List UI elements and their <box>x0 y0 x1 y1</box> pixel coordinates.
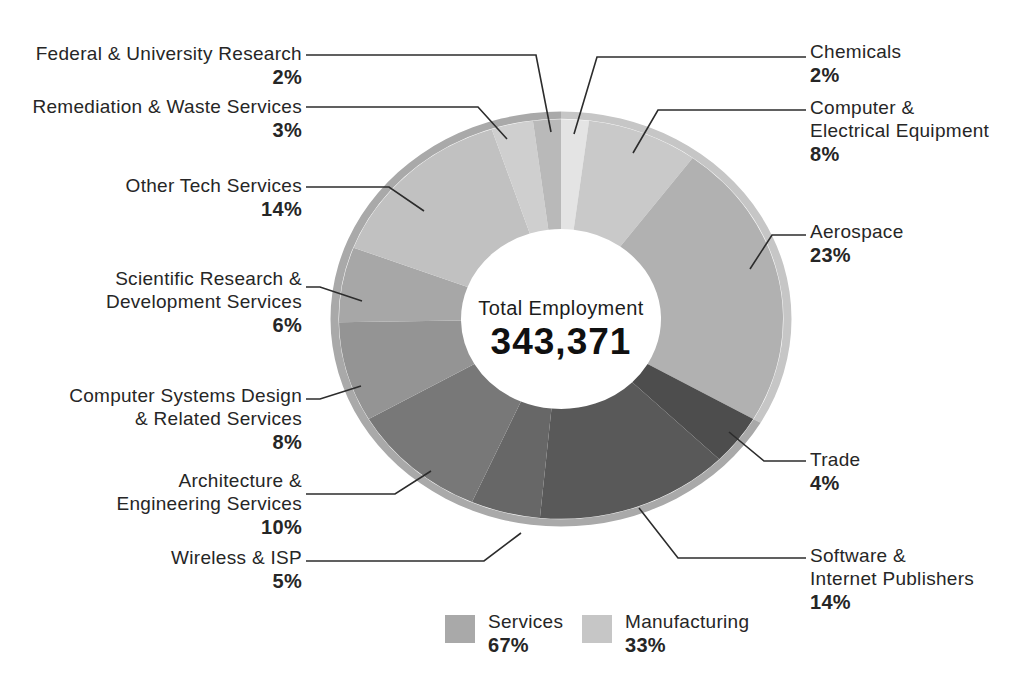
segment-pct: 2% <box>36 66 302 89</box>
segment-label-remediation-waste-services: Remediation & Waste Services 3% <box>32 95 302 142</box>
legend-name: Manufacturing <box>625 611 749 632</box>
segment-pct: 5% <box>171 570 302 593</box>
legend-pct: 67% <box>488 634 563 656</box>
segment-pct: 8% <box>69 431 302 454</box>
segment-pct: 3% <box>32 119 302 142</box>
segment-pct: 4% <box>810 472 860 495</box>
segment-name: Trade <box>810 448 860 471</box>
segment-label-federal-university-research: Federal & University Research 2% <box>36 42 302 89</box>
segment-pct: 10% <box>116 516 302 539</box>
legend-item-manufacturing: Manufacturing 33% <box>582 611 749 656</box>
segment-pct: 2% <box>810 64 901 87</box>
segment-label-software-internet-publishers: Software & Internet Publishers 14% <box>810 544 974 614</box>
segment-name: Wireless & ISP <box>171 546 302 569</box>
leader-line-wireless-isp <box>306 533 521 561</box>
segment-pct: 23% <box>810 244 904 267</box>
segment-pct: 6% <box>106 314 302 337</box>
legend-item-services: Services 67% <box>445 611 563 656</box>
leader-line-software-internet-publishers <box>639 508 806 558</box>
segment-name: Federal & University Research <box>36 42 302 65</box>
segment-name: Architecture & Engineering Services <box>116 469 302 515</box>
segment-label-scientific-research-development-services: Scientific Research & Development Servic… <box>106 267 302 337</box>
segment-label-trade: Trade 4% <box>810 448 860 495</box>
segment-label-aerospace: Aerospace 23% <box>810 220 904 267</box>
segment-name: Chemicals <box>810 40 901 63</box>
segment-name: Other Tech Services <box>126 174 302 197</box>
segment-pct: 8% <box>810 143 989 166</box>
segment-pct: 14% <box>810 591 974 614</box>
segment-label-computer-electrical-equipment: Computer & Electrical Equipment 8% <box>810 96 989 166</box>
segment-name: Computer Systems Design & Related Servic… <box>69 384 302 430</box>
segment-name: Computer & Electrical Equipment <box>810 96 989 142</box>
segment-label-chemicals: Chemicals 2% <box>810 40 901 87</box>
donut-center-text: Total Employment 343,371 <box>478 297 643 363</box>
total-employment-label: Total Employment <box>478 297 643 320</box>
segment-pct: 14% <box>126 198 302 221</box>
segment-name: Aerospace <box>810 220 904 243</box>
segment-name: Software & Internet Publishers <box>810 544 974 590</box>
manufacturing-swatch <box>582 615 612 643</box>
segment-label-other-tech-services: Other Tech Services 14% <box>126 174 302 221</box>
segment-label-architecture-engineering-services: Architecture & Engineering Services 10% <box>116 469 302 539</box>
segment-name: Scientific Research & Development Servic… <box>106 267 302 313</box>
legend-pct: 33% <box>625 634 749 656</box>
segment-name: Remediation & Waste Services <box>32 95 302 118</box>
segment-label-computer-systems-design-related-services: Computer Systems Design & Related Servic… <box>69 384 302 454</box>
services-swatch <box>445 615 475 643</box>
segment-label-wireless-isp: Wireless & ISP 5% <box>171 546 302 593</box>
total-employment-value: 343,371 <box>478 321 643 363</box>
employment-donut-chart-page: Total Employment 343,371 Chemicals 2% Co… <box>0 0 1035 679</box>
legend-name: Services <box>488 611 563 632</box>
